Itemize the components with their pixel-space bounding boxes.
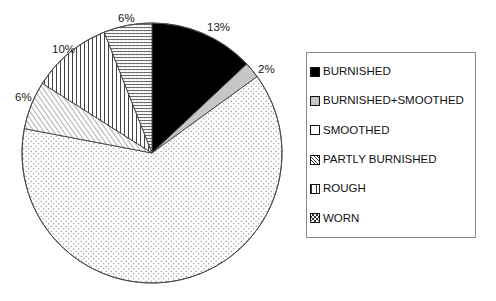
legend-item-label: BURNISHED bbox=[323, 66, 391, 78]
legend-item[interactable]: PARTLY BURNISHED bbox=[310, 153, 475, 167]
legend-item-label: PARTLY BURNISHED bbox=[323, 154, 437, 166]
legend-swatch-icon bbox=[310, 125, 320, 135]
legend-swatch-icon bbox=[310, 96, 320, 106]
legend-item[interactable]: BURNISHED+SMOOTHED bbox=[310, 94, 475, 108]
legend-item-label: BURNISHED+SMOOTHED bbox=[323, 95, 464, 107]
legend-item-label: ROUGH bbox=[323, 183, 366, 195]
slice-label-partly-burnished: 6% bbox=[15, 92, 32, 104]
legend-swatch-icon bbox=[310, 67, 320, 77]
pie-chart-svg bbox=[0, 0, 296, 301]
legend-swatch-icon bbox=[310, 155, 320, 165]
legend-item-list: BURNISHEDBURNISHED+SMOOTHEDSMOOTHEDPARTL… bbox=[307, 53, 475, 237]
pie-chart-figure: 13% 2% 6% 10% 6% BURNISHEDBURNISHED+SMOO… bbox=[0, 0, 496, 301]
legend-swatch-icon bbox=[310, 184, 320, 194]
legend-item[interactable]: WORN bbox=[310, 211, 475, 225]
pie-plot-area: 13% 2% 6% 10% 6% bbox=[0, 0, 296, 301]
slice-label-rough: 10% bbox=[52, 44, 75, 56]
slice-label-worn: 6% bbox=[118, 13, 135, 25]
legend-item[interactable]: SMOOTHED bbox=[310, 123, 475, 137]
legend-item-label: WORN bbox=[323, 213, 359, 225]
chart-legend: BURNISHEDBURNISHED+SMOOTHEDSMOOTHEDPARTL… bbox=[306, 52, 476, 238]
legend-item[interactable]: BURNISHED bbox=[310, 65, 475, 79]
slice-label-burnished-smoothed: 2% bbox=[258, 64, 275, 76]
legend-item-label: SMOOTHED bbox=[323, 125, 389, 137]
pie-slices bbox=[22, 23, 282, 283]
slice-label-burnished: 13% bbox=[207, 22, 230, 34]
legend-item[interactable]: ROUGH bbox=[310, 182, 475, 196]
legend-swatch-icon bbox=[310, 213, 320, 223]
